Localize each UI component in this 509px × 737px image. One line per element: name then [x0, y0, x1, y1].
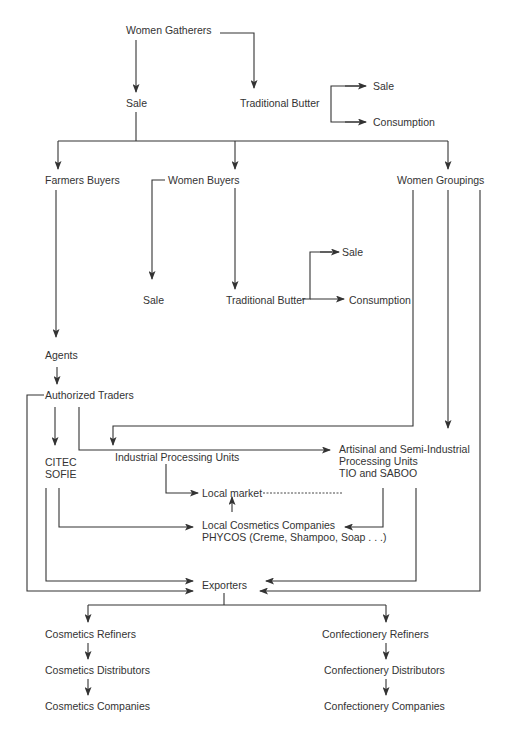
node-citec-sofie: CITEC SOFIE	[45, 456, 77, 480]
connector-lines	[0, 0, 509, 737]
artisinal-line-1: Artisinal and Semi-Industrial	[339, 443, 470, 455]
node-sale-top: Sale	[126, 97, 147, 109]
node-industrial-processing-units: Industrial Processing Units	[115, 451, 239, 463]
node-traditional-butter-top: Traditional Butter	[240, 97, 320, 109]
node-cosmetics-refiners: Cosmetics Refiners	[45, 628, 136, 640]
node-confectionery-distributors: Confectionery Distributors	[324, 664, 445, 676]
artisinal-line-3: TIO and SABOO	[339, 467, 470, 479]
node-consumption-wb: Consumption	[349, 294, 411, 306]
node-women-gatherers: Women Gatherers	[126, 24, 212, 36]
local-cosmetics-line-1: Local Cosmetics Companies	[202, 519, 386, 531]
node-sale-tb-top: Sale	[373, 80, 394, 92]
node-exporters: Exporters	[202, 579, 247, 591]
node-local-market: Local market	[202, 487, 262, 499]
node-authorized-traders: Authorized Traders	[45, 389, 134, 401]
node-consumption-top: Consumption	[373, 116, 435, 128]
node-agents: Agents	[45, 349, 78, 361]
node-cosmetics-companies: Cosmetics Companies	[45, 700, 150, 712]
sofie-label: SOFIE	[45, 468, 77, 480]
artisinal-line-2: Processing Units	[339, 455, 470, 467]
citec-label: CITEC	[45, 456, 77, 468]
node-sale-wb: Sale	[143, 294, 164, 306]
node-sale-tb-wb: Sale	[342, 246, 363, 258]
node-traditional-butter-wb: Traditional Butter	[226, 294, 306, 306]
node-confectionery-companies: Confectionery Companies	[324, 700, 445, 712]
supply-chain-diagram: Women Gatherers Sale Traditional Butter …	[0, 0, 509, 737]
node-farmers-buyers: Farmers Buyers	[45, 174, 120, 186]
node-local-cosmetics: Local Cosmetics Companies PHYCOS (Creme,…	[202, 519, 386, 543]
node-artisinal-units: Artisinal and Semi-Industrial Processing…	[339, 443, 470, 479]
node-women-groupings: Women Groupings	[397, 174, 484, 186]
local-cosmetics-line-2: PHYCOS (Creme, Shampoo, Soap . . .)	[202, 531, 386, 543]
node-cosmetics-distributors: Cosmetics Distributors	[45, 664, 150, 676]
node-confectionery-refiners: Confectionery Refiners	[322, 628, 429, 640]
node-women-buyers: Women Buyers	[168, 174, 240, 186]
